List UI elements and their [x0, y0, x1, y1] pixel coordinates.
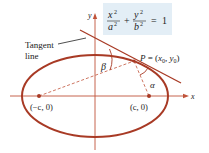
svg-text:a: a [108, 21, 113, 32]
right-focus-label: (c, 0) [130, 102, 148, 112]
svg-text:1: 1 [162, 15, 167, 26]
point-p [132, 59, 135, 62]
svg-text:b: b [134, 21, 139, 32]
left-focus-point [37, 94, 41, 98]
svg-text:x: x [107, 9, 113, 20]
x-axis-arrow-icon [183, 94, 189, 98]
focal-radius-left [39, 61, 134, 96]
svg-text:=: = [151, 15, 157, 26]
svg-text:2: 2 [114, 9, 117, 15]
left-focus-label: (−c, 0) [30, 102, 53, 112]
tangent-label-line1: Tangent [25, 40, 54, 50]
alpha-angle-arc [140, 68, 148, 75]
svg-text:y: y [133, 9, 139, 20]
right-focus-point [147, 94, 151, 98]
svg-text:+: + [124, 15, 130, 26]
y-axis-arrow-icon [93, 13, 97, 19]
svg-text:2: 2 [140, 9, 143, 15]
point-p-label: P = (x0, y0) [139, 53, 180, 64]
x-axis-label: x [190, 92, 195, 101]
alpha-label: α [150, 80, 155, 90]
tangent-label-line2: line [25, 51, 39, 61]
tangent-leader-line [58, 38, 86, 44]
svg-text:2: 2 [140, 21, 143, 27]
svg-text:P = (x0, y0): P = (x0, y0) [139, 53, 180, 64]
beta-label: β [100, 61, 106, 72]
ellipse-diagram: x 2 a 2 + y 2 b 2 = 1 y x Tangent line P… [0, 0, 209, 153]
ellipse-equation: x 2 a 2 + y 2 b 2 = 1 [107, 9, 167, 32]
svg-text:2: 2 [114, 21, 117, 27]
y-axis-label: y [87, 11, 92, 20]
beta-angle-arc [110, 49, 112, 70]
